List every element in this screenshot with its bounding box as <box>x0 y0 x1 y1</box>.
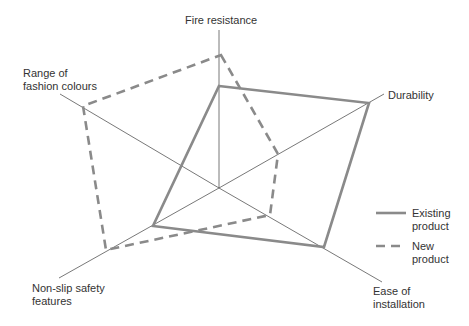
label-durability: Durability <box>388 89 434 102</box>
label-non-slip: Non-slip safety features <box>32 282 105 308</box>
radar-chart <box>0 0 469 326</box>
legend <box>376 213 406 246</box>
series-new-product <box>83 55 278 250</box>
axis-non-slip <box>59 188 219 278</box>
legend-existing-label: Existing product <box>412 207 451 233</box>
legend-new-label: New product <box>412 240 449 266</box>
label-range-colours: Range of fashion colours <box>23 67 97 93</box>
axis-durability <box>219 94 384 188</box>
series-existing-product <box>153 86 369 247</box>
label-fire-resistance: Fire resistance <box>185 14 257 27</box>
axes <box>59 30 384 282</box>
label-ease-of-installation: Ease of installation <box>373 285 425 311</box>
axis-ease-of-installation <box>219 188 382 282</box>
